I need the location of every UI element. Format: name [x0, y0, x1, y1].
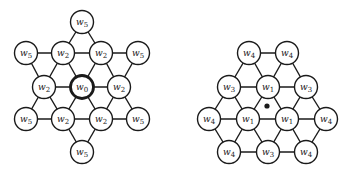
weight-node-w2: w2: [52, 108, 75, 131]
center-dot: [264, 103, 269, 108]
weight-node-w3: w3: [218, 76, 241, 99]
weight-node-w5: w5: [127, 108, 150, 131]
hexagram-weight-diagram: w5w5w2w2w5w2w0w2w5w2w2w5w5: [15, 11, 150, 164]
weight-node-w5: w5: [71, 141, 94, 164]
edges: [209, 53, 326, 152]
weight-node-w4: w4: [238, 42, 261, 65]
weight-node-w4: w4: [198, 108, 221, 131]
weight-node-w2: w2: [52, 42, 75, 65]
weight-node-w1: w1: [276, 108, 299, 131]
weight-node-w5: w5: [127, 42, 150, 65]
weight-node-w5: w5: [71, 11, 94, 34]
weight-node-w4: w4: [218, 141, 241, 164]
hexagon-weight-diagram: w4w4w3w1w3w4w1w1w4w4w3w4: [198, 42, 338, 164]
weight-node-w4: w4: [295, 141, 318, 164]
weight-node-w2: w2: [108, 76, 131, 99]
weight-node-w2: w2: [90, 108, 113, 131]
weight-node-w5: w5: [15, 108, 38, 131]
weight-node-w1: w1: [257, 76, 280, 99]
weight-node-w2: w2: [90, 42, 113, 65]
weight-node-w1: w1: [237, 108, 260, 131]
weight-node-w3: w3: [257, 141, 280, 164]
weight-lattice-diagrams: w5w5w2w2w5w2w0w2w5w2w2w5w5 w4w4w3w1w3w4w…: [0, 0, 348, 174]
weight-node-w4: w4: [315, 108, 338, 131]
weight-node-w0: w0: [71, 76, 94, 99]
weight-node-w3: w3: [295, 76, 318, 99]
weight-node-w5: w5: [15, 42, 38, 65]
weight-node-w4: w4: [276, 42, 299, 65]
weight-node-w2: w2: [33, 76, 56, 99]
